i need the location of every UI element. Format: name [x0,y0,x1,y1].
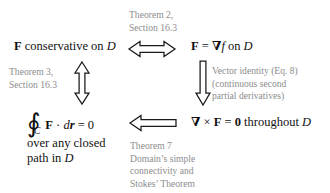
arrow-leftward-implication [128,113,178,137]
path-in-text: path in [27,151,61,165]
integral-caption-line-2: path in D [27,151,105,166]
note-vector-identity-line-2: (continuous second [212,78,298,91]
vector-r-symbol: r [70,118,75,132]
domain-d-symbol: D [302,115,311,129]
vector-f-symbol: F [14,39,22,53]
contour-integral-expression: ∮CF · dr = 0 [27,110,105,133]
equals-zero: = 0 [78,118,94,132]
on-word: on [228,39,241,53]
domain-d-symbol: D [244,39,253,53]
note-theorem-2-line-1: Theorem 2, [129,9,177,22]
domain-d-symbol: D [65,151,74,165]
vector-f-symbol: F [45,118,53,132]
zero-vector-symbol: 0 [235,115,241,129]
integral-caption-line-1: over any closed [27,136,105,151]
nabla-icon: ∇ [212,39,221,53]
equals-sign: = [225,115,232,129]
node-curl-f-equals-zero: ∇ × F = 0 throughout D [191,115,311,130]
contour-c-subscript: C [34,126,40,137]
note-theorem-2-line-2: Section 16.3 [129,22,177,35]
note-theorem-7-line-3: connectivity and [130,165,195,178]
implication-diagram: Theorem 2, Section 16.3 F conservative o… [0,0,330,193]
note-theorem-7-line-2: Domain’s simple [130,153,195,166]
note-vector-identity: Vector identity (Eq. 8) (continuous seco… [212,65,298,103]
cross-product-icon: × [204,115,211,129]
domain-d-symbol: D [107,39,116,53]
equals-sign: = [202,39,209,53]
potential-f-symbol: f [221,39,224,53]
nabla-icon: ∇ [191,115,200,129]
integral-caption: over any closed path in D [27,136,105,166]
vector-f-symbol: F [191,39,199,53]
note-theorem-7: Theorem 7 Domain’s simple connectivity a… [130,140,195,191]
arrow-downward-vertical-right [193,60,213,112]
note-vector-identity-line-3: partial derivatives) [212,90,298,103]
node-f-equals-grad-f: F = ∇f on D [191,39,253,54]
conservative-phrase: conservative on [25,39,104,53]
arrow-biconditional-horizontal [127,39,177,63]
throughout-word: throughout [244,115,299,129]
note-theorem-3-line-2: Section 16.3 [9,79,57,92]
note-theorem-3-line-1: Theorem 3, [9,66,57,79]
arrow-bidirectional-vertical-left [72,60,92,110]
node-contour-integral: ∮CF · dr = 0 over any closed path in D [27,110,105,166]
note-theorem-3: Theorem 3, Section 16.3 [9,66,57,91]
note-vector-identity-line-1: Vector identity (Eq. 8) [212,65,298,78]
note-theorem-2: Theorem 2, Section 16.3 [129,9,177,34]
note-theorem-7-line-1: Theorem 7 [130,140,195,153]
integral-body: F · dr = 0 [45,118,94,133]
note-theorem-7-line-4: Stokes’ Theorem [130,178,195,191]
node-f-conservative: F conservative on D [14,39,116,54]
vector-f-symbol: F [214,115,222,129]
